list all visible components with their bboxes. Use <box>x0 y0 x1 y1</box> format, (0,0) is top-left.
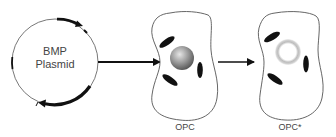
cell-opc-star-label: OPC* <box>270 122 310 132</box>
organelle-icon <box>303 56 309 73</box>
cell-opc-star <box>258 12 323 121</box>
plasmid-gene-bottom <box>45 86 90 105</box>
plasmid-mark-left <box>12 57 13 69</box>
plasmid-gene-bottom-arrow-icon <box>38 100 46 108</box>
organelle-icon <box>197 62 203 78</box>
nucleus-solid-icon <box>170 46 194 70</box>
plasmid-label: BMP Plasmid <box>25 45 85 71</box>
cell-opc-star-membrane <box>258 12 323 121</box>
plasmid-gene-top <box>57 19 79 24</box>
plasmid-label-line1: BMP <box>25 45 85 58</box>
cell-opc <box>152 12 218 121</box>
plasmid-gene-top-arrow-icon <box>75 21 83 28</box>
plasmid-label-line2: Plasmid <box>25 58 85 71</box>
nucleus-halo-icon <box>275 39 301 65</box>
plasmid-mark-right-top <box>84 30 87 33</box>
cell-opc-label: OPC <box>165 122 205 132</box>
